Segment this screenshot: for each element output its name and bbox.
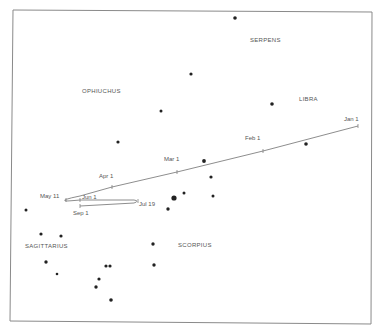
- date-label: Jul 19: [139, 201, 156, 207]
- constellation-label: SAGITTARIUS: [25, 243, 68, 249]
- star-icon: [104, 264, 107, 267]
- date-label: Mar 1: [164, 156, 180, 162]
- date-labels: Jan 1Feb 1Mar 1Apr 1May 11Jun 1Jul 19Sep…: [40, 116, 359, 216]
- date-label: Jan 1: [344, 116, 359, 122]
- star-icon: [25, 209, 28, 212]
- star-icon: [171, 195, 176, 200]
- star-icon: [202, 159, 206, 163]
- star-icon: [270, 102, 274, 106]
- star-icon: [209, 175, 212, 178]
- star-icon: [59, 234, 62, 237]
- star-icon: [166, 207, 169, 210]
- star-icon: [183, 192, 186, 195]
- star-icon: [152, 263, 155, 266]
- date-label: Jun 1: [82, 194, 97, 200]
- star-icon: [39, 232, 42, 235]
- date-label: May 11: [40, 193, 60, 199]
- star-icon: [44, 260, 47, 263]
- star-icon: [151, 242, 154, 245]
- constellation-label: SERPENS: [250, 37, 281, 43]
- constellation-label: OPHIUCHUS: [82, 88, 121, 94]
- date-label: Sep 1: [73, 210, 89, 216]
- constellation-labels: SERPENSOPHIUCHUSLIBRASAGITTARIUSSCORPIUS: [25, 37, 318, 249]
- star-icon: [304, 142, 308, 146]
- star-icon: [94, 285, 97, 288]
- star-icon: [108, 264, 111, 267]
- date-label: Apr 1: [99, 173, 114, 179]
- star-icon: [56, 273, 59, 276]
- star-icon: [212, 195, 215, 198]
- star-icon: [233, 16, 237, 20]
- star-icon: [109, 298, 113, 302]
- star-icon: [116, 140, 119, 143]
- star-chart: SERPENSOPHIUCHUSLIBRASAGITTARIUSSCORPIUS…: [0, 0, 383, 331]
- star-icon: [189, 72, 192, 75]
- constellation-label: SCORPIUS: [178, 242, 212, 248]
- constellation-label: LIBRA: [299, 96, 318, 102]
- star-icon: [160, 110, 163, 113]
- date-label: Feb 1: [245, 135, 261, 141]
- star-icon: [97, 277, 100, 280]
- chart-frame: [10, 10, 372, 324]
- planet-path: [65, 126, 358, 206]
